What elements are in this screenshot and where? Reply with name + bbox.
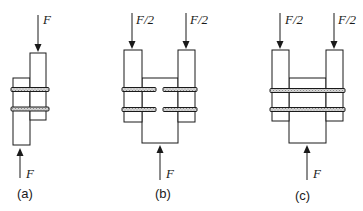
arrow-up-icon <box>17 148 24 178</box>
arrow-down-icon <box>183 13 190 49</box>
force-label-top-left: F/2 <box>284 12 304 27</box>
force-label-bottom: F <box>25 166 35 181</box>
arrow-up-icon <box>157 145 164 180</box>
bolt-upper-right <box>163 88 197 92</box>
force-label-bottom: F <box>165 166 175 181</box>
force-label-top-right: F/2 <box>337 12 357 27</box>
arrow-down-icon <box>35 15 42 52</box>
arrow-up-icon <box>304 145 311 180</box>
figure-a: F F (a) <box>11 12 52 201</box>
bolt-lower <box>270 108 345 112</box>
bolt-upper-left <box>122 88 156 92</box>
bolt-upper <box>11 88 49 92</box>
bolt-upper <box>270 89 345 93</box>
figure-c: F/2 F/2 F (c) <box>270 12 357 203</box>
arrow-down-icon <box>277 13 284 49</box>
bolted-joint-diagram: F F (a) F/2 F/2 F (b) <box>0 0 363 211</box>
arrow-down-icon <box>331 13 338 49</box>
bolt-lower-left <box>122 108 156 112</box>
figure-caption-a: (a) <box>17 186 33 201</box>
force-label-top-right: F/2 <box>189 12 209 27</box>
figure-b: F/2 F/2 F (b) <box>122 12 209 201</box>
force-label-top: F <box>42 12 52 27</box>
figure-caption-b: (b) <box>155 186 171 201</box>
bolt-lower-right <box>163 108 197 112</box>
figure-caption-c: (c) <box>295 188 310 203</box>
force-label-bottom: F <box>312 166 322 181</box>
bolt-lower <box>11 107 49 111</box>
force-label-top-left: F/2 <box>135 12 155 27</box>
arrow-down-icon <box>129 13 136 49</box>
